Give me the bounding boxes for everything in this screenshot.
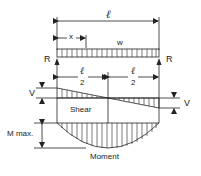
moment-curve xyxy=(57,123,159,148)
reaction-arrow-right xyxy=(157,58,162,65)
mmax-label: M max. xyxy=(7,130,33,138)
half-span-left-numerator: ℓ xyxy=(80,66,84,76)
span-label: ℓ xyxy=(106,9,111,20)
load-label: w xyxy=(117,39,123,47)
reaction-arrow-left xyxy=(55,58,60,65)
distributed-load xyxy=(57,49,159,57)
half-span-right-denominator: 2 xyxy=(131,79,135,87)
half-span-right-numerator: ℓ xyxy=(131,66,135,76)
shear-left-value-label: V xyxy=(29,89,35,98)
shear-label: Shear xyxy=(70,106,91,114)
moment-hatch xyxy=(62,123,156,148)
shear-right-value-label: V xyxy=(184,99,190,108)
load-hatch xyxy=(62,49,156,57)
x-label: x xyxy=(69,33,73,41)
reaction-left-label: R xyxy=(44,55,51,64)
half-span-left-denominator: 2 xyxy=(80,79,84,87)
moment-label: Moment xyxy=(90,153,119,161)
reaction-right-label: R xyxy=(166,55,173,64)
